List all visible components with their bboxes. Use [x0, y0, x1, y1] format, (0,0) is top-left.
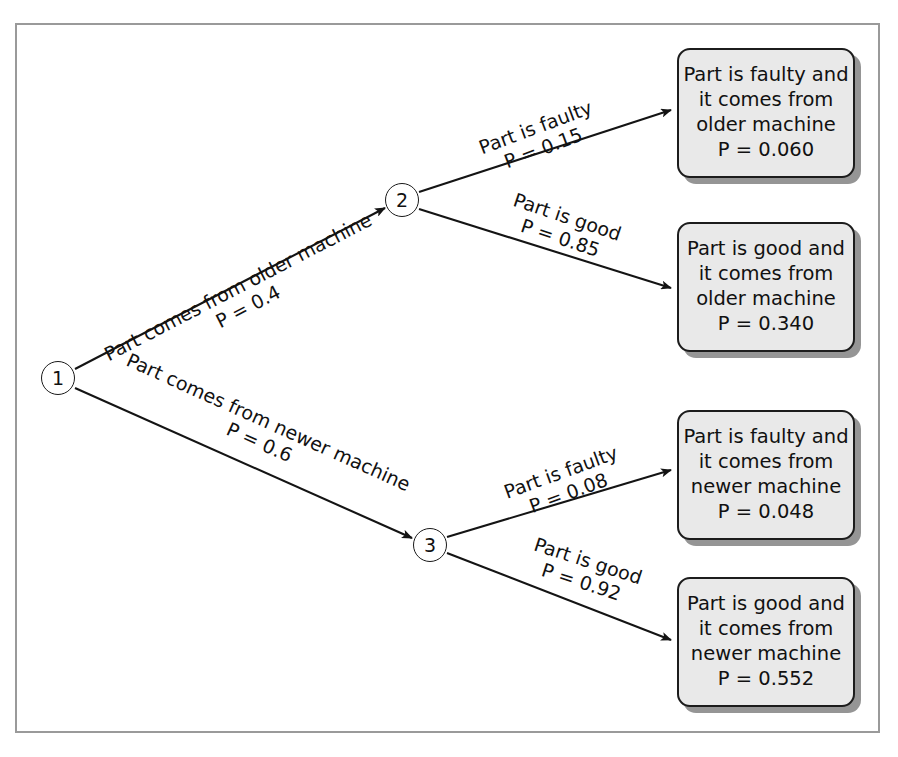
- outcome-line-1: Part is faulty and: [683, 63, 848, 88]
- outcome-line-3: older machine: [696, 287, 836, 312]
- outcome-probability: P = 0.060: [718, 138, 814, 163]
- tree-node-2[interactable]: 2: [385, 183, 419, 217]
- outcome-probability: P = 0.340: [718, 312, 814, 337]
- outcome-line-1: Part is good and: [687, 592, 845, 617]
- outcome-line-2: it comes from: [699, 617, 834, 642]
- outcome-line-3: newer machine: [691, 475, 841, 500]
- outcome-line-3: older machine: [696, 113, 836, 138]
- outcome-probability: P = 0.048: [718, 500, 814, 525]
- tree-node-1[interactable]: 1: [41, 361, 75, 395]
- outcome-line-2: it comes from: [699, 88, 834, 113]
- outcome-box-good-older[interactable]: Part is good and it comes from older mac…: [677, 222, 855, 352]
- node-3-label: 3: [424, 536, 436, 555]
- outcome-line-1: Part is faulty and: [683, 425, 848, 450]
- node-2-label: 2: [396, 191, 408, 210]
- outcome-line-1: Part is good and: [687, 237, 845, 262]
- outcome-line-3: newer machine: [691, 642, 841, 667]
- outcome-line-2: it comes from: [699, 450, 834, 475]
- tree-node-3[interactable]: 3: [413, 528, 447, 562]
- outcome-box-faulty-older[interactable]: Part is faulty and it comes from older m…: [677, 48, 855, 178]
- outcome-box-faulty-newer[interactable]: Part is faulty and it comes from newer m…: [677, 410, 855, 540]
- node-1-label: 1: [52, 369, 64, 388]
- outcome-probability: P = 0.552: [718, 667, 814, 692]
- outcome-line-2: it comes from: [699, 262, 834, 287]
- outcome-box-good-newer[interactable]: Part is good and it comes from newer mac…: [677, 577, 855, 707]
